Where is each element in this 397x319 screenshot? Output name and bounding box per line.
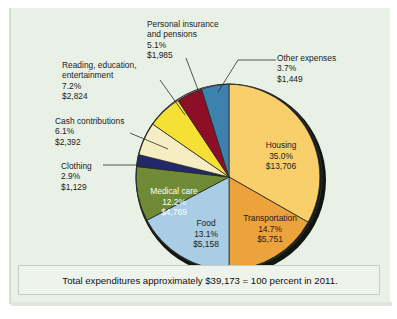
callout-other-expenses-percent: 3.7% bbox=[277, 63, 336, 73]
slice-label-food-amount: $5,158 bbox=[180, 239, 232, 250]
callout-clothing-line1: Clothing bbox=[61, 161, 92, 171]
callout-cash-contributions-percent: 6.1% bbox=[55, 126, 124, 136]
callout-other-expenses-line1: Other expenses bbox=[277, 53, 336, 63]
callout-clothing-amount: $1,129 bbox=[61, 182, 92, 192]
slice-label-food: Food 13.1% $5,158 bbox=[180, 218, 232, 250]
caption-text: Total expenditures approximately $39,173… bbox=[19, 266, 381, 296]
slice-label-transportation-percent: 14.7% bbox=[228, 224, 312, 235]
callout-reading-education-entertainment: Reading, education, entertainment 7.2% $… bbox=[62, 60, 137, 102]
callout-clothing-percent: 2.9% bbox=[61, 171, 92, 181]
callout-cash-contributions-amount: $2,392 bbox=[55, 137, 124, 147]
slice-label-transportation: Transportation 14.7% $5,751 bbox=[228, 213, 312, 245]
chart-area: Personal insurance and pensions 5.1% $1,… bbox=[0, 0, 397, 319]
slice-label-food-percent: 13.1% bbox=[180, 229, 232, 240]
callout-other-expenses: Other expenses 3.7% $1,449 bbox=[277, 53, 336, 84]
callout-personal-insurance-line1: Personal insurance bbox=[147, 19, 219, 29]
callout-clothing: Clothing 2.9% $1,129 bbox=[61, 161, 92, 192]
callout-cash-contributions: Cash contributions 6.1% $2,392 bbox=[55, 116, 124, 147]
callout-reading-line2: entertainment bbox=[62, 70, 137, 80]
callout-reading-line1: Reading, education, bbox=[62, 60, 137, 70]
slice-label-housing: Housing 35.0% $13,706 bbox=[248, 140, 314, 172]
slice-label-medical-care-name: Medical care bbox=[142, 186, 206, 197]
slice-label-housing-name: Housing bbox=[248, 140, 314, 151]
slice-label-transportation-amount: $5,751 bbox=[228, 234, 312, 245]
slice-label-food-name: Food bbox=[180, 218, 232, 229]
pie-chart-figure: Personal insurance and pensions 5.1% $1,… bbox=[0, 0, 397, 319]
callout-other-expenses-amount: $1,449 bbox=[277, 74, 336, 84]
caption-box: Total expenditures approximately $39,173… bbox=[18, 265, 380, 295]
slice-label-medical-care: Medical care 12.2% $4,769 bbox=[142, 186, 206, 218]
slice-label-medical-care-amount: $4,769 bbox=[142, 207, 206, 218]
callout-reading-amount: $2,824 bbox=[62, 91, 137, 101]
slice-label-housing-percent: 35.0% bbox=[248, 151, 314, 162]
callout-reading-percent: 7.2% bbox=[62, 81, 137, 91]
slice-label-housing-amount: $13,706 bbox=[248, 161, 314, 172]
slice-label-medical-care-percent: 12.2% bbox=[142, 197, 206, 208]
callout-personal-insurance: Personal insurance and pensions 5.1% $1,… bbox=[147, 19, 219, 61]
leader-line-personal-insurance bbox=[186, 58, 200, 95]
slice-label-transportation-name: Transportation bbox=[228, 213, 312, 224]
callout-personal-insurance-line2: and pensions bbox=[147, 29, 219, 39]
callout-personal-insurance-percent: 5.1% bbox=[147, 40, 219, 50]
callout-cash-contributions-line1: Cash contributions bbox=[55, 116, 124, 126]
callout-personal-insurance-amount: $1,985 bbox=[147, 50, 219, 60]
